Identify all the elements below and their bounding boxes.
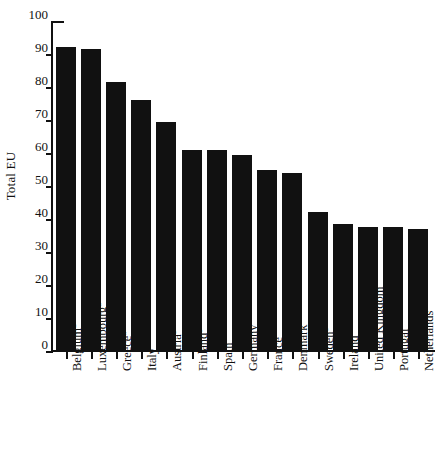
bar-slot	[232, 21, 252, 351]
bar-slot	[106, 21, 126, 351]
bar-slot	[207, 21, 227, 351]
bar	[131, 100, 151, 351]
bar-slot	[182, 21, 202, 351]
y-axis-tickmark	[46, 219, 53, 221]
x-tick-label-text: Swedenb	[322, 327, 337, 371]
x-axis-tickmark	[292, 352, 294, 359]
x-axis-tickmark	[141, 352, 143, 359]
x-tick-label-footnote: b	[169, 330, 178, 334]
x-tick-label-footnote: a	[68, 324, 77, 328]
y-axis-tickmark	[46, 153, 53, 155]
y-axis-title: Total EU	[0, 0, 22, 352]
y-axis-tickmark	[46, 120, 53, 122]
y-axis-tickmark	[46, 318, 53, 320]
x-tick-label-text: Spain	[221, 343, 236, 371]
y-axis-tickmark	[46, 87, 53, 89]
x-axis-tickmark	[267, 352, 269, 359]
bar-slot	[81, 21, 101, 351]
x-axis-labels: BelgiumaLuxembourgaGreeceaItalyAustriabF…	[53, 352, 431, 453]
y-axis-tickmark	[46, 54, 53, 56]
y-axis-tickmark	[46, 351, 53, 353]
bar-slot	[282, 21, 302, 351]
bar	[56, 47, 76, 351]
bar-slot	[333, 21, 353, 351]
x-tick-label-text: Portugal	[397, 329, 412, 371]
x-axis-tickmark	[393, 352, 395, 359]
bar-slot	[156, 21, 176, 351]
x-axis-tickmark	[66, 352, 68, 359]
bar	[182, 150, 202, 351]
bar-slot	[131, 21, 151, 351]
x-tick-label-text: Netherlands	[422, 311, 437, 371]
x-axis-tickmark	[116, 352, 118, 359]
x-axis-tickmark	[343, 352, 345, 359]
y-axis-title-text: Total EU	[3, 152, 19, 201]
x-tick-label-footnote: a	[94, 303, 103, 307]
x-tick-label-footnote: b	[320, 327, 329, 331]
x-tick-label-text: Luxembourga	[95, 303, 110, 371]
y-axis: 1009080706050403020100	[22, 16, 52, 354]
bar-slot	[56, 21, 76, 351]
x-axis-tickmark	[418, 352, 420, 359]
x-axis-tickmark	[242, 352, 244, 359]
x-tick-label-footnote: b	[194, 329, 203, 333]
bar-chart: Total EU 1009080706050403020100 Belgiuma…	[0, 0, 445, 453]
bar	[156, 122, 176, 351]
x-axis-tickmark	[318, 352, 320, 359]
x-tick-label-text: France	[271, 337, 286, 371]
x-tick-label-text: Denmark	[296, 324, 311, 371]
bar-slot	[257, 21, 277, 351]
x-tick-label-text: United Kingdom	[372, 287, 387, 371]
x-tick-label-text: Italy	[145, 348, 160, 371]
x-tick-label-text: Belgiuma	[70, 324, 85, 371]
x-axis-tickmark	[192, 352, 194, 359]
bar	[207, 150, 227, 351]
x-tick-label-text: Ireland	[347, 336, 362, 371]
bar-slot	[308, 21, 328, 351]
x-tick-label-text: Finlandb	[196, 329, 211, 371]
bar-slot	[408, 21, 428, 351]
x-axis-tickmark	[217, 352, 219, 359]
x-axis-tickmark	[91, 352, 93, 359]
x-axis-tickmark	[368, 352, 370, 359]
y-axis-tickmark	[46, 252, 53, 254]
x-tick-label-text: Greecea	[120, 332, 135, 371]
y-axis-tickmark	[46, 186, 53, 188]
x-tick-label-text: Austriab	[170, 330, 185, 371]
x-axis-tickmark	[166, 352, 168, 359]
y-tick-label: 100	[29, 7, 49, 23]
x-tick-label-footnote: a	[119, 332, 128, 336]
x-tick-label-text: Germany	[246, 324, 261, 371]
bar	[232, 155, 252, 351]
y-axis-tickmark	[46, 285, 53, 287]
